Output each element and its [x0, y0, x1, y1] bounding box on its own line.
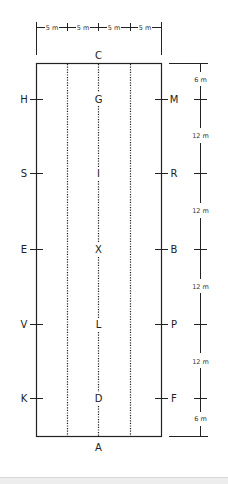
marker-letter-a: A: [95, 442, 102, 453]
marker-letter-e: E: [21, 244, 27, 255]
right-dim-label-1: 6 m: [194, 76, 207, 84]
marker-letter-c: C: [95, 50, 102, 61]
marker-letter-g: G: [95, 94, 103, 105]
marker-letter-v: V: [21, 319, 28, 330]
marker-letter-i: I: [97, 168, 100, 179]
top-dim-label-2: 5 m: [77, 24, 90, 32]
marker-letter-d: D: [95, 393, 103, 404]
marker-letter-r: R: [171, 168, 178, 179]
right-dim-label-5: 12 m: [192, 358, 209, 366]
marker-letter-p: P: [171, 319, 177, 330]
marker-letter-b: B: [171, 244, 178, 255]
top-dim-label-4: 5 m: [139, 24, 152, 32]
marker-letter-l: L: [96, 319, 102, 330]
top-dim-label-3: 5 m: [108, 24, 121, 32]
marker-letter-f: F: [171, 393, 177, 404]
right-dim-label-6: 6 m: [194, 415, 207, 423]
right-dim-label-2: 12 m: [192, 132, 209, 140]
right-dim-label-4: 12 m: [192, 283, 209, 291]
top-dim-label-1: 5 m: [46, 24, 59, 32]
marker-letter-x: X: [95, 244, 102, 255]
marker-letter-h: H: [20, 94, 28, 105]
marker-letter-m: M: [170, 94, 179, 105]
marker-letter-k: K: [21, 393, 28, 404]
footer-bar: [0, 477, 228, 484]
right-dim-label-3: 12 m: [192, 207, 209, 215]
marker-letter-s: S: [21, 168, 27, 179]
